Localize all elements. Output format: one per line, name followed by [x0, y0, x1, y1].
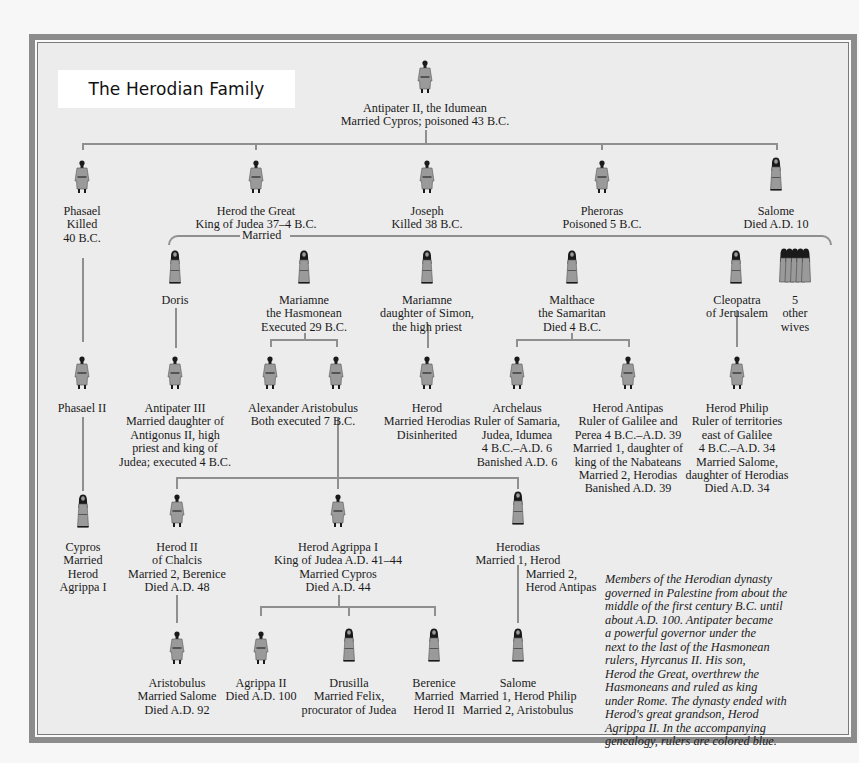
- female-figure-icon: [565, 250, 579, 288]
- person-malthace: Malthace the Samaritan Died 4 B.C.: [538, 294, 605, 334]
- connector: [82, 143, 84, 150]
- connector: [348, 606, 350, 616]
- connector: [82, 258, 84, 342]
- male-figure-icon: [330, 494, 346, 532]
- person-name: Berenice: [412, 677, 455, 690]
- person-name: Herod II: [128, 541, 226, 554]
- person-detail: Banished A.D. 39: [573, 482, 683, 495]
- person-detail: Married Herodias: [384, 415, 470, 428]
- male-figure-icon: [169, 494, 185, 532]
- person-salome-daughter: Salome Married 1, Herod Philip Married 2…: [459, 677, 576, 717]
- person-detail: Married 2,: [526, 568, 597, 581]
- male-figure-icon: [328, 356, 344, 394]
- person-detail: Ruler of Galilee and: [573, 415, 683, 428]
- female-figure-icon: [511, 491, 525, 529]
- person-pheroras: Pheroras Poisoned 5 B.C.: [562, 205, 641, 232]
- person-other-wives: 5 other wives: [781, 294, 809, 334]
- connector: [82, 143, 607, 145]
- connector: [176, 477, 178, 489]
- person-name: Cleopatra: [706, 294, 768, 307]
- person-detail: Killed: [63, 218, 101, 231]
- person-detail: Died A.D. 100: [225, 690, 296, 703]
- person-detail: the Hasmonean: [261, 307, 347, 320]
- person-detail: Married Cypros; poisoned 43 B.C.: [341, 115, 510, 128]
- person-name: 5: [781, 294, 809, 307]
- person-detail: King of Judea 37–4 B.C.: [195, 218, 316, 231]
- connector: [434, 606, 436, 616]
- person-doris: Doris: [161, 294, 188, 307]
- person-detail: Married 2, Aristobulus: [459, 704, 576, 717]
- person-joseph: Joseph Killed 38 B.C.: [391, 205, 462, 232]
- connector: [270, 339, 338, 341]
- note-line: genealogy, rulers are colored blue.: [605, 735, 845, 749]
- person-name: Salome: [744, 205, 809, 218]
- person-cleopatra: Cleopatra of Jerusalem: [706, 294, 768, 321]
- connector: [336, 339, 338, 347]
- note-line: Members of the Herodian dynasty: [605, 573, 845, 587]
- person-detail: Judea, Idumea: [474, 429, 560, 442]
- person-name: Aristobulus: [138, 677, 217, 690]
- female-figure-icon: [342, 628, 356, 666]
- male-figure-icon: [594, 160, 610, 198]
- person-name: Phasael: [63, 205, 101, 218]
- person-detail: east of Galilee: [686, 429, 789, 442]
- connector: [601, 143, 603, 150]
- person-detail: Married Cypros: [274, 568, 402, 581]
- person-cypros: Cypros Married Herod Agrippa I: [59, 541, 106, 595]
- male-figure-icon: [167, 356, 183, 394]
- person-antipater-iii: Antipater III Married daughter of Antigo…: [119, 402, 231, 469]
- note-line: under Rome. The dynasty ended with: [605, 695, 845, 709]
- person-detail: Died A.D. 44: [274, 581, 402, 594]
- connector: [516, 339, 630, 341]
- male-figure-icon: [169, 631, 185, 669]
- person-drusilla: Drusilla Married Felix, procurator of Ju…: [302, 677, 397, 717]
- person-name: Antipater II, the Idumean: [341, 102, 510, 115]
- person-herod-son: Herod Married Herodias Disinherited: [384, 402, 470, 442]
- female-figure-icon: [511, 628, 525, 666]
- female-figure-icon: [420, 250, 434, 288]
- person-name: Herod Antipas: [573, 402, 683, 415]
- person-herod-ii-chalcis: Herod II of Chalcis Married 2, Berenice …: [128, 541, 226, 595]
- note-line: rulers, Hyrcanus II. His son,: [605, 654, 845, 668]
- connector: [270, 339, 272, 347]
- female-figure-icon: [427, 628, 441, 666]
- female-figure-icon: [76, 494, 90, 532]
- person-name: Archelaus: [474, 402, 560, 415]
- person-name: Mariamne: [261, 294, 347, 307]
- person-detail: Married Felix,: [302, 690, 397, 703]
- person-herod-philip: Herod Philip Ruler of territories east o…: [686, 402, 789, 496]
- person-alexander-aristobulus: Alexander Aristobulus Both executed 7 B.…: [248, 402, 358, 429]
- male-figure-icon: [729, 356, 745, 394]
- male-figure-icon: [74, 356, 90, 394]
- person-archelaus: Archelaus Ruler of Samaria, Judea, Idume…: [474, 402, 560, 469]
- male-figure-icon: [253, 631, 269, 669]
- note-line: about A.D. 100. Antipater became: [605, 614, 845, 628]
- person-detail: King of Judea A.D. 41–44: [274, 554, 402, 567]
- female-figure-icon: [168, 250, 182, 288]
- person-name: Salome: [459, 677, 576, 690]
- person-name: Malthace: [538, 294, 605, 307]
- diagram-title: The Herodian Family: [89, 79, 265, 99]
- person-name: Alexander Aristobulus: [248, 402, 358, 415]
- male-figure-icon: [74, 160, 90, 198]
- person-detail: Died A.D. 10: [744, 218, 809, 231]
- caption-note: Members of the Herodian dynasty governed…: [605, 573, 845, 749]
- person-detail: Died A.D. 92: [138, 704, 217, 717]
- person-name: Herod Agrippa I: [274, 541, 402, 554]
- note-line: next to the last of the Hasmonean: [605, 641, 845, 655]
- person-mariamne-hasmonean: Mariamne the Hasmonean Executed 29 B.C.: [261, 294, 347, 334]
- person-detail: Married 1, daughter of: [573, 442, 683, 455]
- note-line: Herod's great grandson, Herod: [605, 708, 845, 722]
- person-detail: Agrippa I: [59, 581, 106, 594]
- person-herodias: Herodias Married 1, Herod: [476, 541, 561, 568]
- person-detail: Judea; executed 4 B.C.: [119, 456, 231, 469]
- person-detail: wives: [781, 321, 809, 334]
- connector: [776, 143, 778, 150]
- female-figure-icon: [297, 250, 311, 288]
- connector: [602, 143, 777, 145]
- person-detail: Married 1, Herod Philip: [459, 690, 576, 703]
- note-line: a powerful governor under the: [605, 627, 845, 641]
- person-name: Antipater III: [119, 402, 231, 415]
- person-detail: Married daughter of: [119, 415, 231, 428]
- person-detail: Antigonus II, high: [119, 429, 231, 442]
